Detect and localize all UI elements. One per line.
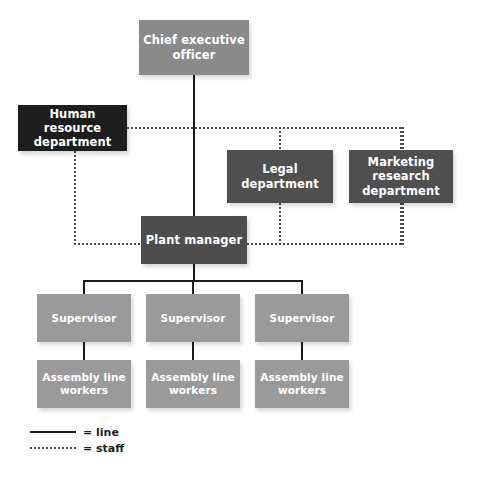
node-assembly-line-workers-2[interactable]: Assembly lineworkers xyxy=(146,360,240,408)
legend-item-line: = line xyxy=(30,424,124,440)
node-label-supervisor-1: Supervisor xyxy=(48,312,121,325)
connector-plant-manager-stub xyxy=(193,264,195,281)
node-marketing-research-department[interactable]: Marketingresearchdepartment xyxy=(349,150,453,203)
node-label-workers-3: Assembly lineworkers xyxy=(256,371,347,397)
connector-supervisor-2-to-workers-2 xyxy=(192,342,194,360)
node-supervisor-3[interactable]: Supervisor xyxy=(255,294,349,342)
node-label-supervisor-2: Supervisor xyxy=(157,312,230,325)
legend-label-staff: = staff xyxy=(83,442,124,455)
solid-line-swatch-icon xyxy=(30,431,76,433)
node-chief-executive-officer[interactable]: Chief executiveofficer xyxy=(139,20,249,75)
connector-bus-to-supervisor-2 xyxy=(192,280,194,294)
connector-ceo-to-plant-manager xyxy=(193,75,195,216)
node-legal-department[interactable]: Legaldepartment xyxy=(227,150,333,203)
connector-bus-to-supervisor-3 xyxy=(301,280,303,294)
node-label-hr: Human resourcedepartment xyxy=(18,107,127,149)
dotted-line-swatch-icon xyxy=(30,446,76,450)
legend: = line = staff xyxy=(30,424,124,456)
node-label-ceo: Chief executiveofficer xyxy=(139,33,249,61)
legend-label-line: = line xyxy=(83,426,119,439)
staff-connector-marketing-bottom xyxy=(400,203,402,245)
node-label-supervisor-3: Supervisor xyxy=(266,312,339,325)
node-label-workers-1: Assembly lineworkers xyxy=(38,371,129,397)
connector-supervisor-1-to-workers-1 xyxy=(83,342,85,360)
node-plant-manager[interactable]: Plant manager xyxy=(141,216,247,264)
org-chart: Chief executiveofficer Human resourcedep… xyxy=(0,0,481,479)
staff-connector-legal-top xyxy=(279,127,281,151)
staff-connector-marketing-top xyxy=(400,127,402,151)
node-label-plant-manager: Plant manager xyxy=(142,233,247,247)
node-label-legal: Legaldepartment xyxy=(237,162,323,190)
staff-connector-legal-bottom xyxy=(279,203,281,245)
staff-connector-bottom-bus-right xyxy=(247,243,404,245)
node-supervisor-1[interactable]: Supervisor xyxy=(37,294,131,342)
legend-item-staff: = staff xyxy=(30,440,124,456)
connector-supervisor-3-to-workers-3 xyxy=(301,342,303,360)
node-label-marketing: Marketingresearchdepartment xyxy=(358,155,444,197)
node-human-resource-department[interactable]: Human resourcedepartment xyxy=(18,105,127,151)
staff-connector-hr-riser xyxy=(74,151,76,245)
node-label-workers-2: Assembly lineworkers xyxy=(147,371,238,397)
staff-connector-top-bus xyxy=(127,127,404,129)
node-supervisor-2[interactable]: Supervisor xyxy=(146,294,240,342)
node-assembly-line-workers-1[interactable]: Assembly lineworkers xyxy=(37,360,131,408)
staff-connector-bottom-bus-left xyxy=(74,243,142,245)
node-assembly-line-workers-3[interactable]: Assembly lineworkers xyxy=(255,360,349,408)
connector-bus-to-supervisor-1 xyxy=(83,280,85,294)
